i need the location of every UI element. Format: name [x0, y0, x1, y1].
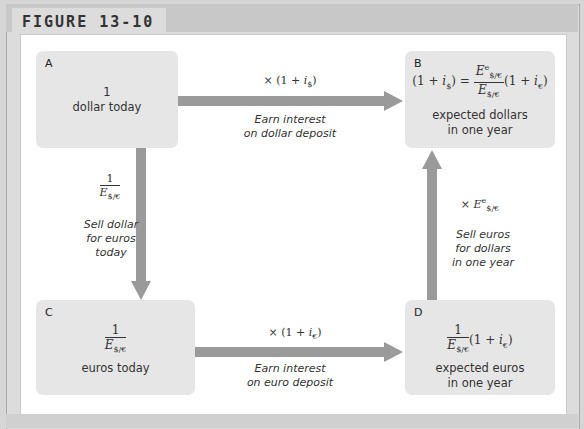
- numerator: 1: [100, 172, 121, 186]
- rate-subscript: $/€: [487, 91, 500, 100]
- caption-line2: on euro deposit: [225, 376, 355, 390]
- box-tag: C: [45, 306, 53, 319]
- rate-subscript: $/€: [108, 192, 121, 201]
- paren-open: (1 +: [412, 74, 442, 88]
- rate-symbol: E: [478, 83, 487, 97]
- rate-subscript: $/€: [456, 345, 469, 354]
- arrow-a-to-b-caption: Earn interest on dollar deposit: [220, 113, 360, 141]
- box-description-line2: in one year: [405, 376, 555, 391]
- arrow-a-to-c-caption: Sell dollar for euros today: [76, 218, 146, 260]
- numerator: 1: [447, 324, 469, 338]
- arrow-a-to-b-formula: × (1 + i$): [230, 74, 350, 89]
- box-equation: (1 + i$) = Ee$/€E$/€(1 + i€): [405, 61, 555, 103]
- box-description-line1: expected euros: [405, 361, 555, 376]
- times-sign: ×: [268, 326, 277, 339]
- arrow-a-to-c-formula: 1E$/€: [95, 172, 125, 204]
- caption-line3: in one year: [448, 256, 518, 270]
- box-value: 1E$/€: [36, 324, 195, 357]
- paren-open: (1 +: [469, 333, 499, 347]
- arrow-d-to-b-formula: × Ee$/€: [455, 196, 505, 213]
- arrow-c-to-d: [195, 342, 403, 362]
- box-a-dollar-today: A 1 dollar today: [36, 51, 178, 148]
- caption-line2: on dollar deposit: [220, 127, 360, 141]
- arrow-a-to-b: [178, 91, 403, 111]
- arrow-c-to-d-caption: Earn interest on euro deposit: [225, 362, 355, 390]
- paren-close: ): [312, 74, 316, 87]
- bottom-strip: [6, 414, 578, 428]
- caption-line1: Sell euros: [448, 228, 518, 242]
- expected-rate-fraction: Ee$/€E$/€: [474, 61, 504, 103]
- rate-symbol: E: [447, 338, 456, 352]
- paren-close: ): [317, 326, 321, 339]
- box-description-line2: in one year: [405, 123, 555, 138]
- rate-symbol: E: [474, 198, 482, 211]
- numerator: 1: [105, 324, 127, 338]
- paren-close: ): [508, 333, 513, 347]
- box-description: euros today: [36, 361, 195, 375]
- box-description: dollar today: [36, 100, 178, 115]
- equals-sign: =: [456, 74, 474, 88]
- box-c-euros-today: C 1E$/€ euros today: [36, 300, 195, 395]
- figure-header: FIGURE 13-10: [6, 4, 578, 32]
- arrow-c-to-d-formula: × (1 + i€): [240, 326, 350, 341]
- times-sign: ×: [263, 74, 272, 87]
- paren-open: (1 +: [504, 74, 534, 88]
- times-sign: ×: [461, 198, 470, 211]
- caption-line2: for dollars: [448, 242, 518, 256]
- paren-open: (1 +: [276, 74, 304, 87]
- figure-label: FIGURE 13-10: [12, 8, 166, 36]
- rate-subscript: $/€: [489, 71, 502, 80]
- arrow-d-to-b: [422, 150, 442, 302]
- box-tag: D: [414, 306, 422, 319]
- box-b-expected-dollars: B (1 + i$) = Ee$/€E$/€(1 + i€) expected …: [405, 51, 555, 148]
- box-description-line1: expected dollars: [405, 108, 555, 123]
- rate-subscript: $/€: [113, 345, 126, 354]
- caption-line1: Earn interest: [220, 113, 360, 127]
- paren-open: (1 +: [281, 326, 309, 339]
- paren-close: ): [543, 74, 548, 88]
- rate-subscript: $/€: [486, 204, 499, 213]
- caption-line2: for euros: [76, 232, 146, 246]
- caption-line1: Earn interest: [225, 362, 355, 376]
- arrow-d-to-b-caption: Sell euros for dollars in one year: [448, 228, 518, 270]
- box-value: 1E$/€(1 + i€): [405, 324, 555, 357]
- rate-symbol: E: [100, 186, 108, 199]
- caption-line3: today: [76, 246, 146, 260]
- box-value: 1: [36, 85, 178, 100]
- box-tag: A: [45, 57, 53, 70]
- caption-line1: Sell dollar: [76, 218, 146, 232]
- box-d-expected-euros: D 1E$/€(1 + i€) expected euros in one ye…: [405, 300, 555, 395]
